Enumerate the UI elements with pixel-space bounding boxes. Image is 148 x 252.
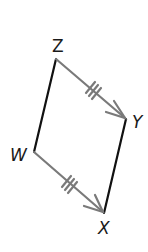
segment-yx	[104, 119, 126, 213]
vector-zy	[56, 59, 125, 118]
vector-wx	[34, 152, 103, 212]
vertex-label-z: Z	[52, 36, 64, 56]
vertex-label-w: W	[10, 145, 28, 165]
vertex-label-x: X	[97, 218, 110, 238]
parallelogram-diagram: Z Y W X	[0, 0, 148, 252]
segment-wz	[34, 59, 56, 152]
vertex-label-y: Y	[132, 112, 144, 132]
